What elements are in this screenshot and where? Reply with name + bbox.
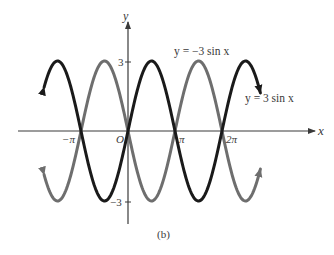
figure-caption: (b) xyxy=(157,228,170,241)
tick-label-2pi: 2π xyxy=(226,133,238,145)
tick-label-3: 3 xyxy=(118,56,124,68)
graph-canvas: y x 3 −3 −π O π 2π y = −3 sin x y = 3 si… xyxy=(0,0,334,255)
tick-label-pi: π xyxy=(179,133,185,145)
x-axis-label: x xyxy=(317,123,324,138)
label-3-sin-x: y = 3 sin x xyxy=(245,92,294,105)
tick-label-neg3: −3 xyxy=(110,196,122,208)
label-neg-3-sin-x: y = −3 sin x xyxy=(174,45,229,58)
sine-graph-figure: y x 3 −3 −π O π 2π y = −3 sin x y = 3 si… xyxy=(0,0,334,255)
tick-label-neg-pi: −π xyxy=(62,133,75,145)
y-axis-label: y xyxy=(122,9,129,23)
tick-label-origin: O xyxy=(116,133,124,145)
